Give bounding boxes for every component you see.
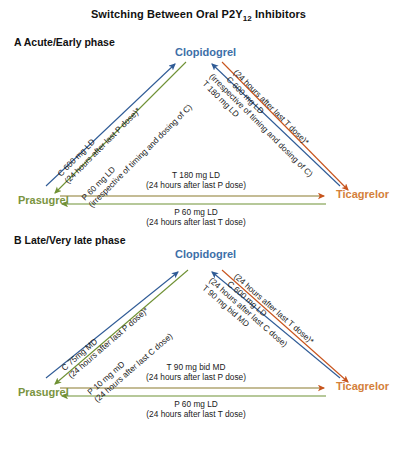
node-clopidogrel-b[interactable]: Clopidogrel — [175, 248, 236, 260]
panel-a-label: A Acute/Early phase — [14, 36, 115, 48]
title-prefix: Switching Between Oral P2Y — [91, 8, 243, 20]
label-ticagrelor-to-prasugrel-b: P 60 mg LD (24 hours after last T dose) — [96, 400, 296, 420]
page-title: Switching Between Oral P2Y12 Inhibitors — [0, 8, 397, 23]
title-subscript: 12 — [243, 14, 252, 23]
node-clopidogrel-a[interactable]: Clopidogrel — [175, 46, 236, 58]
label-prasugrel-to-ticagrelor-a: T 180 mg LD (24 hours after last P dose) — [96, 171, 296, 191]
label-ticagrelor-to-prasugrel-a: P 60 mg LD (24 hours after last T dose) — [96, 208, 296, 228]
panel-b-label: B Late/Very late phase — [14, 234, 125, 246]
label-prasugrel-to-ticagrelor-b: T 90 mg bid MD (24 hours after last P do… — [96, 363, 296, 383]
node-ticagrelor-a[interactable]: Ticagrelor — [336, 188, 389, 200]
title-suffix: Inhibitors — [252, 8, 306, 20]
diagram-canvas: Switching Between Oral P2Y12 Inhibitors … — [0, 0, 397, 449]
node-prasugrel-a[interactable]: Prasugrel — [18, 194, 69, 206]
node-prasugrel-b[interactable]: Prasugrel — [18, 386, 69, 398]
node-ticagrelor-b[interactable]: Ticagrelor — [336, 380, 389, 392]
